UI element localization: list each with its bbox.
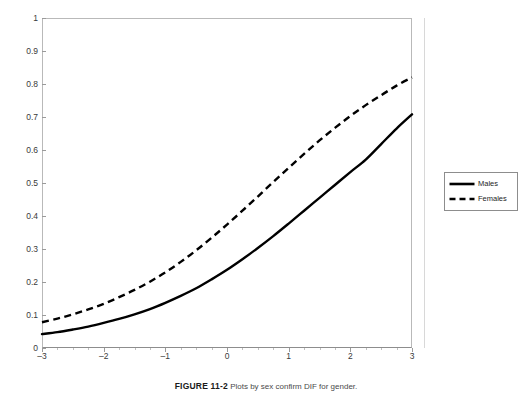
- y-tick-label: 0.5: [4, 179, 38, 188]
- x-tick-label: –2: [99, 352, 108, 361]
- legend-divider: [424, 18, 425, 348]
- y-tick-label: 0.9: [4, 47, 38, 56]
- x-tick-minor-mark: [119, 348, 120, 350]
- x-tick-mark: [350, 348, 351, 352]
- y-tick-label: 0.4: [4, 212, 38, 221]
- chart-legend: Males Females: [444, 172, 518, 211]
- x-tick-minor-mark: [135, 348, 136, 350]
- y-tick-label: 0.6: [4, 146, 38, 155]
- y-tick-label: 0.8: [4, 80, 38, 89]
- y-axis: 00.10.20.30.40.50.60.70.80.91: [0, 18, 38, 348]
- x-tick-minor-mark: [181, 348, 182, 350]
- x-tick-mark: [289, 348, 290, 352]
- y-tick-label: 0.1: [4, 311, 38, 320]
- x-tick-mark: [42, 348, 43, 352]
- x-tick-minor-mark: [88, 348, 89, 350]
- figure-caption-number: FIGURE 11-2: [175, 381, 228, 391]
- x-tick-minor-mark: [73, 348, 74, 350]
- figure-caption-text: Plots by sex confirm DIF for gender.: [230, 382, 357, 391]
- x-tick-minor-mark: [212, 348, 213, 350]
- series-line-females: [42, 77, 412, 322]
- x-tick-mark: [165, 348, 166, 352]
- legend-item-males: Males: [449, 178, 513, 190]
- x-tick-label: –3: [37, 352, 46, 361]
- x-tick-minor-mark: [335, 348, 336, 350]
- x-tick-minor-mark: [196, 348, 197, 350]
- x-tick-label: 1: [286, 352, 291, 361]
- figure-caption: FIGURE 11-2 Plots by sex confirm DIF for…: [0, 381, 532, 392]
- figure-container: 00.10.20.30.40.50.60.70.80.91 –3–2–10123…: [0, 0, 532, 394]
- x-tick-minor-mark: [258, 348, 259, 350]
- x-tick-minor-mark: [242, 348, 243, 350]
- legend-swatch-dashed-icon: [449, 194, 475, 204]
- x-tick-label: 0: [225, 352, 230, 361]
- y-tick-label: 1: [4, 14, 38, 23]
- x-tick-minor-mark: [397, 348, 398, 350]
- x-tick-minor-mark: [366, 348, 367, 350]
- x-tick-label: –1: [161, 352, 170, 361]
- x-axis: –3–2–10123: [42, 352, 412, 366]
- legend-item-females: Females: [449, 193, 513, 205]
- x-tick-minor-mark: [320, 348, 321, 350]
- y-tick-label: 0: [4, 344, 38, 353]
- legend-label-males: Males: [478, 180, 498, 188]
- x-tick-minor-mark: [150, 348, 151, 350]
- x-tick-mark: [227, 348, 228, 352]
- legend-swatch-solid-icon: [449, 179, 475, 189]
- x-tick-mark: [412, 348, 413, 352]
- y-tick-label: 0.7: [4, 113, 38, 122]
- x-tick-minor-mark: [57, 348, 58, 350]
- x-tick-minor-mark: [304, 348, 305, 350]
- x-tick-mark: [104, 348, 105, 352]
- x-tick-minor-mark: [273, 348, 274, 350]
- x-tick-label: 3: [410, 352, 415, 361]
- y-tick-label: 0.3: [4, 245, 38, 254]
- x-tick-minor-mark: [381, 348, 382, 350]
- x-tick-label: 2: [348, 352, 353, 361]
- y-tick-label: 0.2: [4, 278, 38, 287]
- chart-plot: [42, 18, 412, 348]
- legend-label-females: Females: [478, 195, 507, 203]
